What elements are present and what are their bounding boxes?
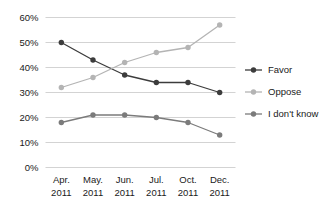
x-tick-label: Dec.	[210, 174, 230, 185]
legend-label: Oppose	[268, 86, 301, 97]
data-point	[122, 60, 127, 65]
x-tick-label: 2011	[83, 187, 103, 198]
data-point	[122, 72, 127, 77]
data-point	[90, 57, 95, 62]
x-tick-label: Jun.	[116, 174, 134, 185]
series-path	[61, 115, 219, 135]
data-point	[154, 50, 159, 55]
x-tick-label: 2011	[51, 187, 71, 198]
y-tick-label: 10%	[19, 137, 39, 148]
legend-item-i-don-t-know[interactable]: I don't know	[245, 108, 319, 119]
x-tick-label: 2011	[178, 187, 198, 198]
y-tick-label: 0%	[25, 162, 39, 173]
gridlines	[46, 18, 236, 168]
data-point	[185, 80, 190, 85]
y-axis-tick-labels: 0%10%20%30%40%50%60%	[19, 12, 39, 173]
data-point	[185, 120, 190, 125]
y-tick-label: 30%	[19, 87, 39, 98]
y-tick-label: 40%	[19, 62, 39, 73]
series-oppose	[59, 22, 223, 90]
x-tick-label: 2011	[146, 187, 166, 198]
legend-item-favor[interactable]: Favor	[245, 64, 292, 75]
x-tick-label: 2011	[114, 187, 134, 198]
data-point	[59, 40, 64, 45]
x-tick-label: Apr.	[53, 174, 70, 185]
legend-swatch-marker	[251, 89, 256, 94]
data-point	[59, 85, 64, 90]
x-tick-label: 2011	[209, 187, 229, 198]
line-chart: 0%10%20%30%40%50%60% Apr.2011May.2011Jun…	[0, 0, 333, 213]
x-tick-label: Jul.	[149, 174, 164, 185]
data-point	[217, 22, 222, 27]
legend-item-oppose[interactable]: Oppose	[245, 86, 301, 97]
legend-swatch-marker	[251, 67, 256, 72]
legend-swatch-marker	[251, 111, 256, 116]
data-point	[185, 45, 190, 50]
data-point	[217, 90, 222, 95]
data-point	[154, 115, 159, 120]
data-point	[217, 132, 222, 137]
data-point	[122, 112, 127, 117]
y-tick-label: 50%	[19, 37, 39, 48]
x-tick-label: Oct.	[179, 174, 196, 185]
data-point	[90, 75, 95, 80]
y-tick-label: 20%	[19, 112, 39, 123]
data-series-layer	[59, 22, 223, 137]
legend-label: Favor	[268, 64, 292, 75]
x-tick-label: May.	[83, 174, 103, 185]
legend-label: I don't know	[268, 108, 319, 119]
chart-legend: FavorOpposeI don't know	[245, 64, 319, 119]
x-axis-tick-labels: Apr.2011May.2011Jun.2011Jul.2011Oct.2011…	[51, 174, 230, 198]
y-tick-label: 60%	[19, 12, 39, 23]
data-point	[154, 80, 159, 85]
data-point	[90, 112, 95, 117]
data-point	[59, 120, 64, 125]
chart-canvas: 0%10%20%30%40%50%60% Apr.2011May.2011Jun…	[0, 0, 333, 213]
series-i-don-t-know	[59, 112, 223, 137]
